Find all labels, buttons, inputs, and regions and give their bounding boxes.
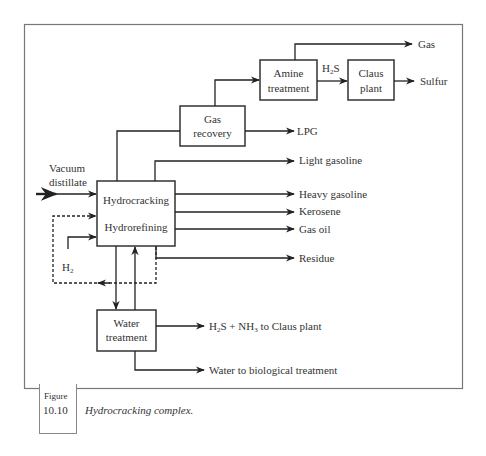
lpg-output: LPG <box>297 125 318 138</box>
hydrocracking-box <box>97 181 175 246</box>
light-gasoline-output: Light gasoline <box>299 154 362 167</box>
h2s-nh3-output: H2S + NH3 to Claus plant <box>209 320 322 337</box>
figure-caption: Hydrocracking complex. <box>85 404 193 416</box>
figure-word: Figure <box>44 391 68 401</box>
light-gasoline-arrow <box>155 161 294 181</box>
hydro-to-gas-recovery-line <box>117 131 180 181</box>
residue-output: Residue <box>299 252 334 265</box>
residue-arrow <box>156 246 294 258</box>
gas-recovery-label-2: recovery <box>180 127 245 140</box>
amine-label-2: treatment <box>260 82 317 95</box>
water-label-1: Water <box>97 317 156 330</box>
claus-label-2: plant <box>348 82 394 95</box>
kerosene-output: Kerosene <box>299 205 341 218</box>
sulfur-output: Sulfur <box>420 75 448 88</box>
h2-label: H2 <box>62 261 73 278</box>
h2s-stream-label: H2S <box>322 62 340 79</box>
gas-arrow <box>295 44 412 60</box>
water-bio-output: Water to biological treatment <box>209 364 337 377</box>
gas-recovery-label-1: Gas <box>180 113 245 126</box>
hydrocracking-label: Hydrocracking <box>97 194 175 207</box>
claus-label-1: Claus <box>348 67 394 80</box>
gas-oil-output: Gas oil <box>299 223 330 236</box>
amine-label-1: Amine <box>260 67 317 80</box>
feed-label-1: Vacuum <box>49 162 85 175</box>
gas-output: Gas <box>418 38 435 51</box>
water-bio-arrow <box>135 351 204 370</box>
hydrorefining-label: Hydrorefining <box>97 221 175 234</box>
figure-number: 10.10 <box>43 404 68 416</box>
heavy-gasoline-output: Heavy gasoline <box>299 188 367 201</box>
water-label-2: treatment <box>97 331 156 344</box>
feed-label-2: distillate <box>49 176 87 189</box>
h2-arrow <box>68 237 96 249</box>
to-amine-arrow <box>215 80 259 106</box>
gas-recovery-box <box>180 106 245 146</box>
